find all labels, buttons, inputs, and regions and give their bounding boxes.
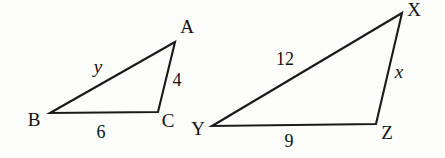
- vertex-label-b: B: [28, 110, 41, 129]
- geometry-figure: A B C y 4 6 X Y Z 12 x 9: [0, 0, 445, 158]
- vertex-label-z: Z: [381, 123, 393, 142]
- vertex-label-c: C: [162, 111, 175, 130]
- vertex-label-a: A: [180, 17, 194, 36]
- side-label-ac: 4: [173, 71, 182, 89]
- vertex-label-y: Y: [191, 119, 205, 138]
- side-label-yz: 9: [285, 132, 294, 150]
- side-label-ab: y: [94, 57, 102, 76]
- vertex-label-x: X: [407, 0, 421, 19]
- side-label-xz: x: [395, 62, 403, 81]
- triangle-xyz-outline: [212, 13, 402, 126]
- triangle-abc-outline: [50, 42, 175, 113]
- side-label-xy: 12: [276, 50, 294, 68]
- side-label-bc: 6: [97, 123, 106, 141]
- triangles-svg: [0, 0, 445, 158]
